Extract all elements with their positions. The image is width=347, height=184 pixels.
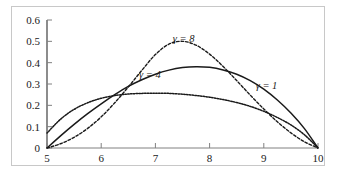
series-curve-solid	[47, 67, 318, 148]
series-label-dotted: γ = 1	[256, 80, 278, 91]
series-label-solid: γ = 4	[139, 69, 161, 80]
series-label-dashed: γ = 8	[173, 33, 195, 44]
line-chart-plot: 00.10.20.30.40.50.6 5678910 γ = 1γ = 4γ …	[0, 0, 347, 184]
y-tick-label: 0.4	[26, 57, 40, 69]
y-tick-label: 0.6	[26, 14, 40, 26]
series-annotation-labels: γ = 1γ = 4γ = 8	[139, 33, 277, 91]
y-tick-label: 0.2	[26, 99, 40, 111]
y-tick-label: 0.1	[26, 121, 40, 133]
x-tick-label: 10	[313, 152, 325, 164]
x-tick-label: 7	[153, 152, 159, 164]
x-tick-marks	[47, 143, 318, 148]
y-tick-labels: 00.10.20.30.40.50.6	[26, 14, 40, 154]
x-tick-labels: 5678910	[44, 152, 324, 164]
data-series-group	[47, 41, 318, 148]
series-curve-dotted	[47, 93, 318, 148]
x-tick-label: 5	[44, 152, 50, 164]
x-axis-group: 5678910	[44, 143, 324, 164]
y-tick-label: 0	[35, 142, 41, 154]
y-tick-label: 0.5	[26, 35, 40, 47]
y-axis-group: 00.10.20.30.40.50.6	[26, 14, 52, 154]
x-tick-label: 8	[207, 152, 213, 164]
x-tick-label: 9	[261, 152, 267, 164]
chart-figure: 00.10.20.30.40.50.6 5678910 γ = 1γ = 4γ …	[0, 0, 347, 184]
x-tick-label: 6	[98, 152, 104, 164]
y-tick-label: 0.3	[26, 78, 40, 90]
